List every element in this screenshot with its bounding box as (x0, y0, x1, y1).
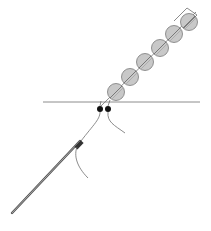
tail-thread (108, 100, 125, 133)
bead-chain (108, 14, 198, 101)
bead (152, 40, 169, 57)
knot-dot (97, 106, 103, 112)
needle-icon (12, 140, 84, 213)
needle-thread-loop (76, 147, 88, 178)
bead (108, 84, 125, 101)
bead (137, 54, 154, 71)
bead (166, 26, 183, 43)
knot-dot (105, 106, 111, 112)
bead (181, 14, 198, 31)
bead (122, 69, 139, 86)
beading-diagram (0, 0, 211, 231)
